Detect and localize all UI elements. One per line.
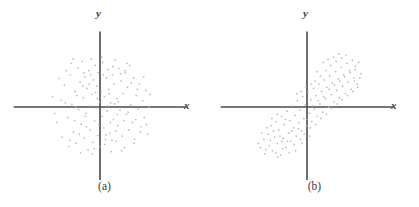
scatter-point xyxy=(122,93,124,95)
scatter-point xyxy=(296,100,298,102)
panel-caption-a: (a) xyxy=(0,181,209,193)
scatter-point xyxy=(328,88,330,90)
scatter-point xyxy=(82,85,84,87)
scatter-point xyxy=(132,122,134,124)
scatter-point xyxy=(333,101,335,103)
scatter-point xyxy=(302,96,304,98)
scatter-point xyxy=(74,120,76,122)
scatter-point xyxy=(107,69,109,71)
scatter-point xyxy=(356,83,358,85)
scatter-point xyxy=(345,54,347,56)
scatter-point xyxy=(100,146,102,148)
scatter-point xyxy=(140,126,142,128)
scatter-point xyxy=(354,80,356,82)
scatter-point xyxy=(80,152,82,154)
scatter-point xyxy=(136,88,138,90)
scatter-point xyxy=(344,93,346,95)
scatter-point xyxy=(126,113,128,115)
scatter-point xyxy=(332,82,334,84)
scatter-point xyxy=(282,148,284,150)
scatter-point xyxy=(273,130,275,132)
scatter-point xyxy=(80,123,82,125)
scatter-point xyxy=(281,140,283,142)
scatter-point xyxy=(120,73,122,75)
scatter-point xyxy=(123,120,125,122)
scatter-point xyxy=(349,72,351,74)
scatter-point xyxy=(341,57,343,59)
scatter-point xyxy=(89,105,91,107)
scatter-point xyxy=(338,53,340,55)
scatter-point xyxy=(322,111,324,113)
scatter-point xyxy=(74,91,76,93)
scatter-point xyxy=(134,138,136,140)
scatter-point xyxy=(73,131,75,133)
scatter-point xyxy=(130,104,132,106)
scatter-point xyxy=(320,118,322,120)
scatter-point xyxy=(305,86,307,88)
scatter-point xyxy=(340,67,342,69)
scatter-point xyxy=(272,150,274,152)
scatter-point xyxy=(83,137,85,139)
scatter-point xyxy=(140,131,142,133)
scatter-point xyxy=(333,56,335,58)
y-axis-label-a: y xyxy=(96,8,101,19)
scatter-point xyxy=(145,90,147,92)
scatter-point xyxy=(75,106,77,108)
scatter-point xyxy=(277,156,279,158)
scatter-point xyxy=(54,112,56,114)
scatter-point xyxy=(318,83,320,85)
scatter-point xyxy=(323,79,325,81)
scatter-point xyxy=(78,109,80,111)
scatter-point xyxy=(71,104,73,106)
scatter-point xyxy=(101,116,103,118)
scatter-points xyxy=(258,53,362,158)
y-axis-label-b: y xyxy=(303,8,308,19)
scatter-point xyxy=(314,80,316,82)
scatter-point xyxy=(309,127,311,129)
scatter-point xyxy=(316,71,318,73)
scatter-point xyxy=(101,56,103,58)
scatter-point xyxy=(315,124,317,126)
scatter-point xyxy=(92,142,94,144)
scatter-point xyxy=(118,101,120,103)
scatter-point xyxy=(325,98,327,100)
scatter-point xyxy=(146,124,148,126)
scatter-point xyxy=(124,70,126,72)
scatter-point xyxy=(306,125,308,127)
scatter-point xyxy=(325,70,327,72)
scatter-point xyxy=(268,145,270,147)
scatter-point xyxy=(67,117,69,119)
scatter-point xyxy=(83,72,85,74)
scatter-point xyxy=(56,122,58,124)
scatter-point xyxy=(113,119,115,121)
scatter-point xyxy=(291,130,293,132)
scatter-point xyxy=(115,130,117,132)
scatter-point xyxy=(286,110,288,112)
scatter-point xyxy=(106,77,108,79)
scatter-point xyxy=(112,66,114,68)
scatter-point xyxy=(96,98,98,100)
scatter-point xyxy=(68,146,70,148)
scatter-point xyxy=(331,107,333,109)
scatter-point xyxy=(269,139,271,141)
scatter-point xyxy=(352,59,354,61)
scatter-point xyxy=(93,148,95,150)
scatter-point xyxy=(119,109,121,111)
scatter-point xyxy=(337,78,339,80)
scatter-point xyxy=(82,97,84,99)
scatter-point xyxy=(328,106,330,108)
scatter-point xyxy=(112,74,114,76)
scatter-point xyxy=(120,80,122,82)
scatter-point xyxy=(127,86,129,88)
scatter-point xyxy=(288,132,290,134)
scatter-point xyxy=(289,120,291,122)
scatter-point xyxy=(135,119,137,121)
scatter-point xyxy=(300,91,302,93)
scatter-point xyxy=(335,60,337,62)
scatter-point xyxy=(107,105,109,107)
scatter-point xyxy=(98,124,100,126)
scatter-point xyxy=(72,58,74,60)
scatter-point xyxy=(93,79,95,81)
scatter-point xyxy=(279,135,281,137)
scatter-point xyxy=(103,127,105,129)
